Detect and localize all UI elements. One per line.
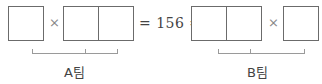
group-label-b: B팀: [247, 62, 268, 81]
multiply-sign-left: ×: [49, 16, 60, 30]
bracket-b-tick: [250, 49, 251, 54]
bracket-a: [32, 49, 118, 54]
group-label-a: A팀: [64, 62, 85, 81]
bracket-a-tick: [85, 49, 86, 54]
box-divider: [98, 7, 99, 40]
bracket-b: [218, 49, 305, 54]
blank-box-b1[interactable]: [191, 6, 262, 41]
blank-box-b2[interactable]: [283, 6, 319, 41]
box-divider: [226, 7, 227, 40]
blank-box-a1[interactable]: [8, 6, 44, 41]
blank-box-a2[interactable]: [63, 6, 134, 41]
multiply-sign-right: ×: [268, 16, 279, 30]
